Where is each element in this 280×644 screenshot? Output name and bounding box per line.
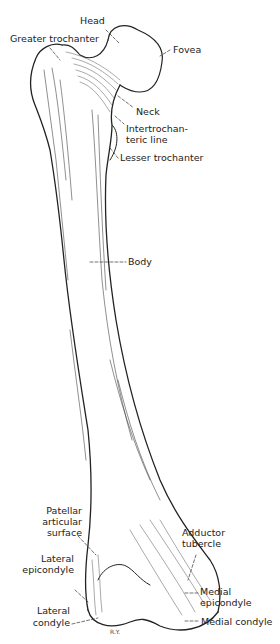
distal-end-outline xyxy=(88,610,218,630)
label-lateral-epicondyle-2: epicondyle xyxy=(10,564,74,575)
femur-illustration xyxy=(0,0,280,644)
label-medial-epicondyle-1: Medial xyxy=(200,586,231,597)
patellar-surface-outline xyxy=(98,565,150,585)
label-patellar-surface-1: Patellar xyxy=(20,505,82,516)
label-greater-trochanter: Greater trochanter xyxy=(10,33,99,44)
artist-signature: R.Y. xyxy=(110,628,120,635)
label-patellar-surface-2: articular xyxy=(20,516,82,527)
label-intertrochanteric-line-1: Intertrochan- xyxy=(126,123,188,134)
label-neck: Neck xyxy=(136,106,160,117)
label-body: Body xyxy=(128,256,152,267)
label-adductor-tubercle-1: Adductor xyxy=(182,527,225,538)
label-head: Head xyxy=(80,15,105,26)
label-lateral-epicondyle-1: Lateral xyxy=(10,553,74,564)
label-lateral-condyle-1: Lateral xyxy=(10,605,70,616)
label-lesser-trochanter: Lesser trochanter xyxy=(120,152,203,163)
label-fovea: Fovea xyxy=(173,44,201,55)
label-intertrochanteric-line-2: teric line xyxy=(126,134,168,145)
label-adductor-tubercle-2: tubercle xyxy=(182,538,221,549)
label-patellar-surface-3: surface xyxy=(20,527,82,538)
label-medial-condyle: Medial condyle xyxy=(201,616,272,627)
label-lateral-condyle-2: condyle xyxy=(10,617,70,628)
label-medial-epicondyle-2: epicondyle xyxy=(200,597,252,608)
